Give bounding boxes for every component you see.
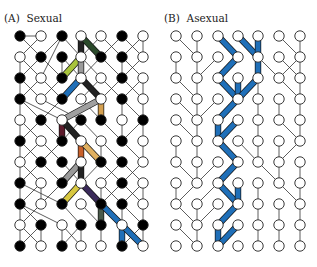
individual-node-filled [117,178,127,188]
individual-node-open [253,157,263,167]
individual-node-open [233,199,243,209]
individual-node-open [171,136,181,146]
individual-node-open [274,115,284,125]
individual-node-open [36,73,46,83]
individual-node-filled [15,73,25,83]
individual-node-filled [138,220,148,230]
individual-node-filled [57,178,67,188]
individual-node-open [36,94,46,104]
individual-node-open [295,241,305,251]
individual-node-filled [15,94,25,104]
individual-node-open [171,241,181,251]
individual-node-open [213,115,223,125]
individual-node-open [76,31,86,41]
individual-node-filled [117,94,127,104]
individual-node-open [213,94,223,104]
individual-node-open [76,241,86,251]
individual-node-open [233,31,243,41]
individual-node-open [117,220,127,230]
individual-node-filled [76,115,86,125]
individual-node-open [36,178,46,188]
individual-node-open [213,157,223,167]
individual-node-open [253,94,263,104]
individual-node-open [36,199,46,209]
individual-node-open [15,220,25,230]
individual-node-filled [57,73,67,83]
individual-node-open [138,178,148,188]
individual-node-open [295,31,305,41]
individual-node-open [295,178,305,188]
individual-node-filled [57,136,67,146]
individual-node-open [274,220,284,230]
individual-node-open [192,52,202,62]
individual-node-open [138,136,148,146]
individual-node-filled [76,220,86,230]
individual-node-filled [15,31,25,41]
individual-node-open [233,241,243,251]
individual-node-open [36,241,46,251]
individual-node-filled [96,52,106,62]
individual-node-open [138,199,148,209]
individual-node-open [192,241,202,251]
individual-node-open [138,241,148,251]
individual-node-open [15,115,25,125]
individual-node-open [274,136,284,146]
individual-node-open [253,52,263,62]
individual-node-open [138,94,148,104]
individual-node-open [295,220,305,230]
individual-node-open [76,178,86,188]
individual-node-open [213,178,223,188]
individual-node-open [36,136,46,146]
individual-node-open [76,136,86,146]
individual-node-filled [15,178,25,188]
individual-node-open [192,157,202,167]
individual-node-open [57,115,67,125]
individual-node-open [274,199,284,209]
individual-node-open [253,136,263,146]
individual-node-open [171,220,181,230]
individual-node-open [171,199,181,209]
individual-node-open [192,136,202,146]
individual-node-open [171,178,181,188]
individual-node-open [274,178,284,188]
individual-node-open [295,199,305,209]
individual-node-open [76,199,86,209]
individual-node-open [253,199,263,209]
individual-node-open [96,178,106,188]
individual-node-open [233,178,243,188]
individual-node-filled [117,241,127,251]
individual-node-filled [57,199,67,209]
individual-node-open [213,52,223,62]
individual-node-open [295,115,305,125]
individual-node-open [96,241,106,251]
individual-node-open [295,52,305,62]
individual-node-open [213,220,223,230]
individual-node-open [233,136,243,146]
individual-node-open [295,136,305,146]
individual-node-open [96,31,106,41]
individual-node-open [192,178,202,188]
individual-node-open [253,220,263,230]
individual-node-filled [36,157,46,167]
individual-node-filled [117,73,127,83]
asexual-nodes [171,31,305,251]
individual-node-open [233,73,243,83]
individual-node-filled [57,31,67,41]
individual-node-open [233,94,243,104]
individual-node-open [213,136,223,146]
individual-node-open [213,241,223,251]
sexual-panel [15,31,148,251]
individual-node-open [253,115,263,125]
individual-node-filled [117,136,127,146]
asexual-panel [171,31,305,251]
individual-node-filled [36,115,46,125]
individual-node-open [57,220,67,230]
individual-node-open [76,94,86,104]
individual-node-filled [57,52,67,62]
individual-node-open [274,157,284,167]
individual-node-open [233,115,243,125]
individual-node-filled [96,157,106,167]
individual-node-filled [36,52,46,62]
individual-node-filled [117,31,127,41]
genealogy-diagram [0,0,317,267]
